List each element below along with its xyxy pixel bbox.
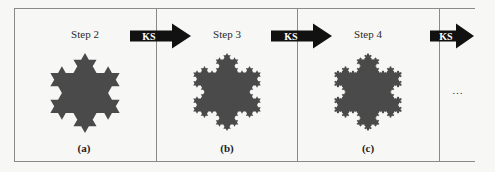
- arrow-shape-1: [130, 24, 191, 49]
- koch-snowflake-step-3: [193, 53, 261, 131]
- arrow-label-1: KS: [142, 31, 156, 42]
- ks-arrow-1: KS: [130, 24, 191, 49]
- arrow-label-3: KS: [439, 31, 453, 42]
- arrow-label-2: KS: [284, 31, 298, 42]
- ks-arrow-3: KS: [430, 24, 474, 49]
- ks-arrow-2: KS: [271, 24, 332, 49]
- koch-snowflake-step-2: [50, 53, 119, 133]
- shapes-layer: KS KS KS: [0, 0, 495, 172]
- arrow-shape-2: [271, 24, 332, 49]
- koch-snowflake-diagram: Step 2 Step 3 Step 4 (a) (b) (c) … KS KS…: [0, 0, 495, 172]
- koch-snowflake-step-4: [334, 53, 402, 131]
